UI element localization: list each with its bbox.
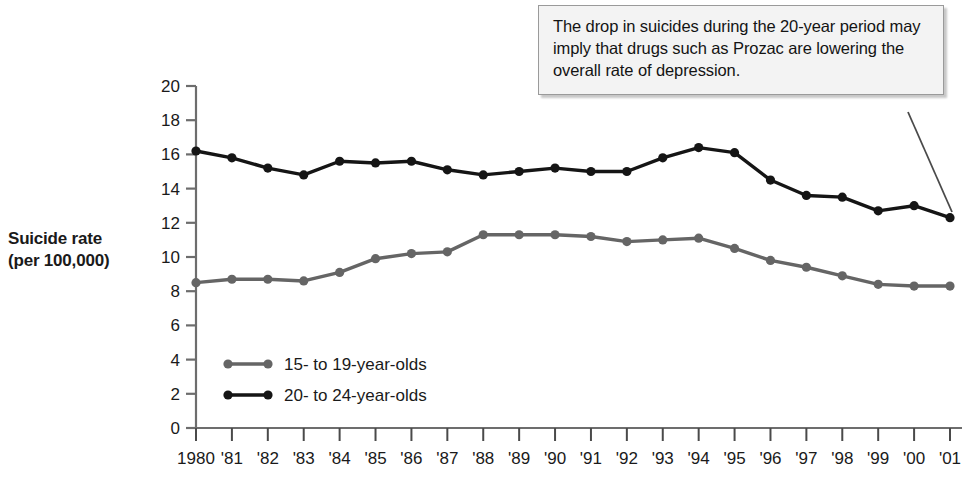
- data-point: [227, 275, 236, 284]
- x-tick-label: '92: [616, 449, 638, 468]
- data-point: [802, 191, 811, 200]
- data-point: [945, 281, 954, 290]
- legend-swatch-marker: [223, 390, 232, 399]
- data-point: [874, 206, 883, 215]
- data-point: [263, 275, 272, 284]
- x-tick-label: '99: [867, 449, 889, 468]
- x-tick-marks: [196, 428, 950, 441]
- data-point: [515, 167, 524, 176]
- data-series-group: [191, 143, 954, 291]
- data-point: [874, 280, 883, 289]
- legend-item-label: 20- to 24-year-olds: [284, 386, 427, 405]
- data-point: [299, 170, 308, 179]
- data-point: [443, 165, 452, 174]
- data-point: [299, 276, 308, 285]
- callout-leader-line: [908, 112, 952, 212]
- x-tick-label: '85: [364, 449, 386, 468]
- series-line: [196, 148, 950, 218]
- data-point: [407, 249, 416, 258]
- y-tick-label: 14: [161, 180, 180, 199]
- x-tick-label: '96: [759, 449, 781, 468]
- data-point: [335, 157, 344, 166]
- x-tick-label: '00: [903, 449, 925, 468]
- callout-text: The drop in suicides during the 20-year …: [553, 17, 920, 79]
- y-tick-labels: 02468101214161820: [161, 77, 180, 438]
- data-point: [227, 153, 236, 162]
- data-point: [371, 254, 380, 263]
- x-tick-label: '91: [580, 449, 602, 468]
- x-axis: 1980'81'82'83'84'85'86'87'88'89'90'91'92…: [177, 428, 962, 468]
- series-line: [196, 235, 950, 286]
- x-tick-label: '95: [723, 449, 745, 468]
- x-tick-label: '87: [436, 449, 458, 468]
- data-point: [838, 193, 847, 202]
- data-point: [443, 247, 452, 256]
- y-tick-label: 20: [161, 77, 180, 96]
- x-tick-label: '94: [688, 449, 710, 468]
- data-point: [909, 281, 918, 290]
- data-point: [407, 157, 416, 166]
- data-point: [694, 234, 703, 243]
- chart-page: Suicide rate (per 100,000) 0246810121416…: [0, 0, 980, 492]
- x-tick-labels: 1980'81'82'83'84'85'86'87'88'89'90'91'92…: [177, 449, 961, 468]
- data-point: [658, 235, 667, 244]
- data-point: [945, 213, 954, 222]
- y-axis: 02468101214161820: [161, 77, 196, 438]
- x-tick-label: '93: [652, 449, 674, 468]
- x-tick-label: 1980: [177, 449, 215, 468]
- x-tick-label: '83: [293, 449, 315, 468]
- prozac-callout-box: The drop in suicides during the 20-year …: [538, 5, 944, 95]
- data-point: [335, 268, 344, 277]
- data-point: [586, 232, 595, 241]
- data-point: [622, 167, 631, 176]
- legend-swatch-marker: [223, 359, 232, 368]
- x-tick-label: '81: [221, 449, 243, 468]
- data-point: [622, 237, 631, 246]
- data-point: [658, 153, 667, 162]
- x-tick-label: '84: [329, 449, 351, 468]
- data-point: [263, 163, 272, 172]
- x-tick-label: '01: [939, 449, 961, 468]
- data-point: [550, 163, 559, 172]
- data-point: [191, 146, 200, 155]
- x-tick-label: '88: [472, 449, 494, 468]
- data-point: [730, 244, 739, 253]
- y-tick-label: 18: [161, 111, 180, 130]
- y-tick-label: 4: [171, 351, 180, 370]
- y-tick-label: 0: [171, 419, 180, 438]
- series-young: [191, 230, 954, 291]
- data-point: [515, 230, 524, 239]
- data-point: [694, 143, 703, 152]
- y-tick-label: 16: [161, 145, 180, 164]
- y-tick-label: 12: [161, 214, 180, 233]
- data-point: [838, 271, 847, 280]
- y-tick-label: 8: [171, 282, 180, 301]
- data-point: [909, 201, 918, 210]
- x-tick-label: '97: [795, 449, 817, 468]
- data-point: [730, 148, 739, 157]
- data-point: [586, 167, 595, 176]
- y-tick-label: 10: [161, 248, 180, 267]
- data-point: [766, 175, 775, 184]
- legend-swatch-marker: [263, 390, 272, 399]
- series-older: [191, 143, 954, 222]
- data-point: [766, 256, 775, 265]
- data-point: [479, 230, 488, 239]
- x-tick-label: '90: [544, 449, 566, 468]
- x-tick-label: '86: [400, 449, 422, 468]
- data-point: [550, 230, 559, 239]
- y-tick-marks: [186, 86, 196, 428]
- data-point: [802, 263, 811, 272]
- data-point: [371, 158, 380, 167]
- x-tick-label: '98: [831, 449, 853, 468]
- data-point: [479, 170, 488, 179]
- y-tick-label: 6: [171, 316, 180, 335]
- chart-legend: 15- to 19-year-olds20- to 24-year-olds: [223, 355, 426, 405]
- legend-swatch-marker: [263, 359, 272, 368]
- x-tick-label: '89: [508, 449, 530, 468]
- y-tick-label: 2: [171, 385, 180, 404]
- data-point: [191, 278, 200, 287]
- legend-item-label: 15- to 19-year-olds: [284, 355, 427, 374]
- x-tick-label: '82: [257, 449, 279, 468]
